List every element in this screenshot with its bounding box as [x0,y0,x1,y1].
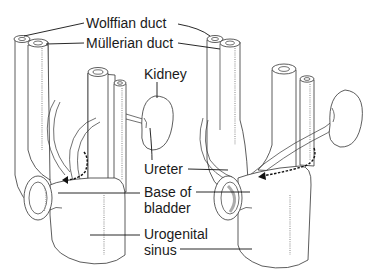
label-kidney: Kidney [144,66,187,82]
label-base-of-bladder-line1: Base of [144,184,191,200]
label-base-of-bladder-line2: bladder [144,200,191,216]
label-wolffian-duct: Wolffian duct [86,15,166,31]
embryology-diagram: Wolffian duct Müllerian duct Kidney Uret… [0,0,375,276]
right-panel [200,36,362,269]
label-urogenital-sinus-line1: Urogenital [144,226,208,242]
label-mullerian-duct: Müllerian duct [86,35,173,51]
label-ureter: Ureter [144,161,183,177]
label-urogenital-sinus-line2: sinus [144,242,177,258]
